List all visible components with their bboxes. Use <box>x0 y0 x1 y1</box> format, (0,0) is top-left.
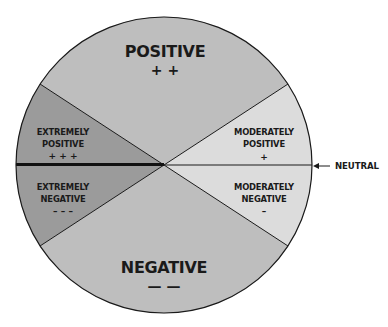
extremely-negative-line1: EXTREMELY <box>37 182 91 192</box>
positive-symbol: + + <box>151 62 179 78</box>
moderately-positive-line2: POSITIVE <box>243 139 285 149</box>
attitude-circle-diagram: NEUTRAL POSITIVE + + EXTREMELY POSITIVE … <box>0 0 388 327</box>
extremely-positive-symbol: + + + <box>49 151 78 161</box>
moderately-positive-symbol: + <box>260 152 268 162</box>
neutral-label: NEUTRAL <box>335 161 380 171</box>
moderately-negative-line1: MODERATELY <box>234 182 295 192</box>
extremely-positive-line1: EXTREMELY <box>37 127 91 137</box>
negative-symbol: — — <box>148 278 181 294</box>
moderately-negative-symbol: – <box>262 206 267 216</box>
neutral-arrow-head-icon <box>313 163 319 169</box>
negative-label: NEGATIVE <box>121 258 207 277</box>
positive-label: POSITIVE <box>125 42 206 61</box>
moderately-negative-line2: NEGATIVE <box>242 194 287 204</box>
moderately-positive-line1: MODERATELY <box>234 127 295 137</box>
extremely-negative-line2: NEGATIVE <box>41 194 86 204</box>
extremely-positive-line2: POSITIVE <box>42 139 84 149</box>
extremely-negative-symbol: – – – <box>53 206 73 216</box>
